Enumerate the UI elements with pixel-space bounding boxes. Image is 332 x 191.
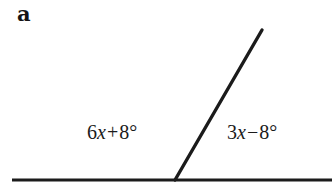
right-angle-coefficient: 3 <box>227 121 237 143</box>
right-angle-operator: − <box>246 121 259 143</box>
right-angle-degree-symbol: ° <box>269 121 277 143</box>
left-angle-constant: 8 <box>119 121 129 143</box>
angle-diagram <box>0 0 332 191</box>
slanted-ray <box>175 30 262 180</box>
right-angle-label: 3x−8° <box>227 122 277 142</box>
part-label: a <box>17 3 31 24</box>
right-angle-variable: x <box>237 121 246 143</box>
left-angle-operator: + <box>106 121 119 143</box>
left-angle-variable: x <box>97 121 106 143</box>
geometry-figure: a 6x+8° 3x−8° <box>0 0 332 191</box>
left-angle-label: 6x+8° <box>87 122 137 142</box>
right-angle-constant: 8 <box>259 121 269 143</box>
left-angle-degree-symbol: ° <box>129 121 137 143</box>
left-angle-coefficient: 6 <box>87 121 97 143</box>
